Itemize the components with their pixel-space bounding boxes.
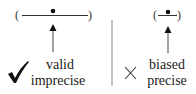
left-label-imprecise: imprecise	[26, 74, 90, 88]
left-label-valid: valid	[38, 58, 82, 72]
right-estimate-dot	[166, 10, 171, 15]
left-estimate-dot	[51, 9, 56, 14]
right-label-biased: biased	[142, 58, 192, 72]
right-interval-open-paren: (	[153, 9, 157, 21]
right-label-precise: precise	[142, 74, 192, 88]
right-interval-close-paren: )	[177, 9, 181, 21]
left-interval-open-paren: (	[15, 9, 19, 21]
right-arrow-head-icon	[165, 26, 172, 33]
left-arrow-head-icon	[50, 24, 57, 31]
cross-icon	[125, 67, 136, 79]
left-interval-close-paren: )	[88, 9, 92, 21]
